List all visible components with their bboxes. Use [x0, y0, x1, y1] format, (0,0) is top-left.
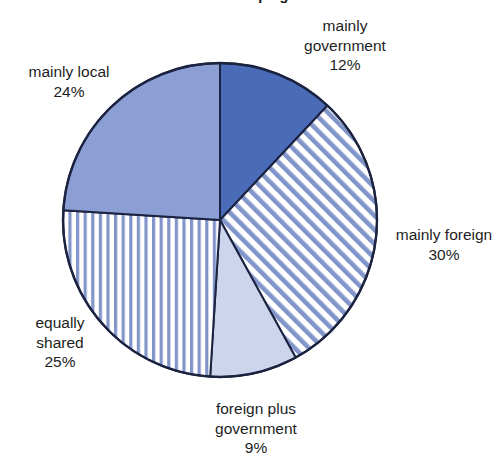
pie-label-equally-shared-line1: equally: [8, 313, 112, 333]
pie-label-mainly-local-value: 24%: [10, 82, 128, 102]
pie-label-mainly-foreign: mainly foreign 30%: [390, 225, 498, 264]
pie-label-foreign-plus-government-value: 9%: [180, 438, 332, 458]
pie-label-foreign-plus-government: foreign plus government 9%: [180, 399, 332, 458]
pie-label-foreign-plus-government-line1: foreign plus: [180, 399, 332, 419]
pie-label-mainly-foreign-value: 30%: [390, 245, 498, 265]
pie-label-mainly-foreign-line1: mainly foreign: [390, 225, 498, 245]
pie-label-equally-shared-line2: shared: [8, 333, 112, 353]
pie-label-mainly-local: mainly local 24%: [10, 62, 128, 101]
pie-label-equally-shared-value: 25%: [8, 352, 112, 372]
pie-chart-figure: in the developing world mainly governmen…: [0, 0, 502, 470]
pie-label-mainly-government-value: 12%: [284, 55, 406, 75]
pie-label-equally-shared: equally shared 25%: [8, 313, 112, 372]
pie-label-mainly-government-line1: mainly: [284, 16, 406, 36]
pie-label-foreign-plus-government-line2: government: [180, 419, 332, 439]
pie-label-mainly-government-line2: government: [284, 36, 406, 56]
pie-label-mainly-government: mainly government 12%: [284, 16, 406, 75]
pie-label-mainly-local-line1: mainly local: [10, 62, 128, 82]
